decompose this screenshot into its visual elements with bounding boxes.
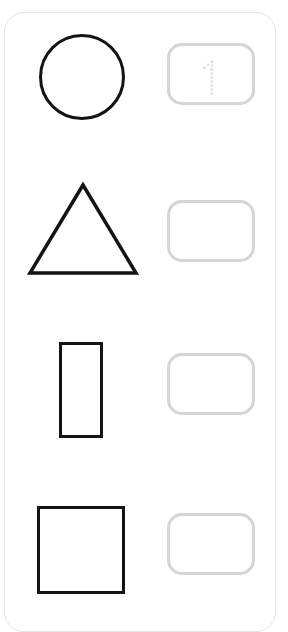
answer-box-triangle[interactable] bbox=[167, 200, 255, 262]
square-outline-icon bbox=[37, 506, 125, 594]
rectangle-outline-icon bbox=[59, 342, 103, 438]
circle-outline-icon bbox=[39, 34, 125, 120]
answer-box-circle[interactable] bbox=[167, 43, 255, 105]
answer-box-square[interactable] bbox=[167, 513, 255, 575]
shape-counting-worksheet-card bbox=[4, 12, 276, 632]
triangle-outline-icon bbox=[26, 181, 140, 277]
dotted-numeral-one-icon bbox=[200, 58, 224, 100]
answer-box-rectangle[interactable] bbox=[167, 353, 255, 415]
